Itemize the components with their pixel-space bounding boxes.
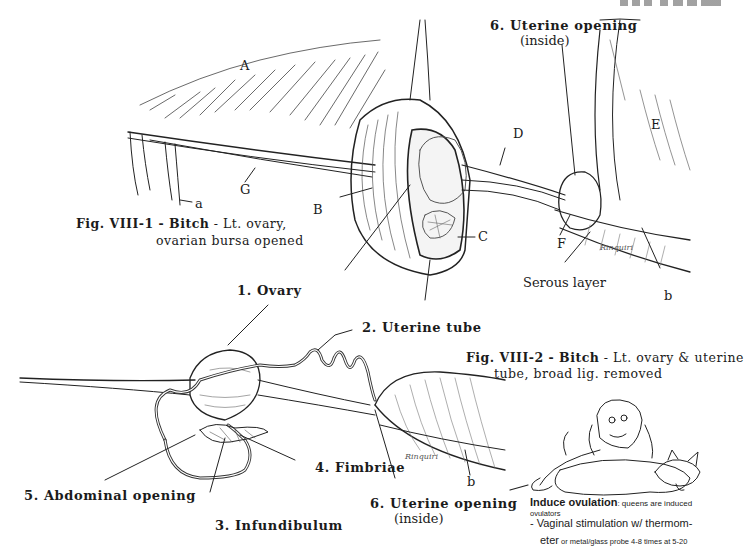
label-A: A xyxy=(240,58,249,73)
label-serous-layer: Serous layer xyxy=(523,275,606,290)
label-b-fig1: b xyxy=(664,288,672,303)
artist-signature-fig2: Rinquiri xyxy=(405,452,438,461)
note-bullet1-cont-big: eter xyxy=(540,534,559,546)
note-title: Induce ovulation xyxy=(530,496,617,508)
note-bullet1-cont: eter or metal/glass probe 4-8 times at 5… xyxy=(540,530,687,548)
note-bullet1-cont-small: or metal/glass probe 4-8 times at 5-20 xyxy=(559,537,687,546)
label-C: C xyxy=(478,229,488,244)
figure2-caption: Fig. VIII-2 - Bitch - Lt. ovary & uterin… xyxy=(466,350,744,365)
label-b-fig2: b xyxy=(467,474,475,489)
figure1-caption-bold: Fig. VIII-1 - Bitch xyxy=(76,216,209,231)
figure1-caption-line2: ovarian bursa opened xyxy=(156,233,304,248)
figure1-caption-rest: - Lt. ovary, xyxy=(209,216,286,231)
label-B: B xyxy=(313,202,323,217)
label-G: G xyxy=(240,182,250,197)
note-bullet1: - Vaginal stimulation w/ thermom- xyxy=(530,517,692,529)
label-uterine-opening-fig1: 6. Uterine opening xyxy=(490,18,638,33)
figure2-caption-bold: Fig. VIII-2 - Bitch xyxy=(466,350,599,365)
artist-signature-fig1: Rinquiri xyxy=(600,243,633,252)
label-ovary: 1. Ovary xyxy=(237,283,302,298)
label-uterine-opening-fig1-sub: (inside) xyxy=(520,33,570,48)
label-abdominal-opening: 5. Abdominal opening xyxy=(24,488,196,503)
figure2-caption-line2: tube, broad lig. removed xyxy=(494,366,663,381)
label-D: D xyxy=(513,126,523,141)
label-uterine-tube: 2. Uterine tube xyxy=(362,320,482,335)
label-uterine-opening-fig2-sub: (inside) xyxy=(394,511,444,526)
label-uterine-opening-fig2: 6. Uterine opening xyxy=(370,496,518,511)
label-a: a xyxy=(195,196,203,211)
note-title-line: Induce ovulation: queens are induced xyxy=(530,496,692,508)
figure2-caption-rest: - Lt. ovary & uterine xyxy=(599,350,743,365)
figure1-caption: Fig. VIII-1 - Bitch - Lt. ovary, xyxy=(76,216,287,231)
label-F: F xyxy=(557,236,566,251)
label-fimbriae: 4. Fimbriae xyxy=(315,460,405,475)
label-infundibulum: 3. Infundibulum xyxy=(215,518,343,533)
cartoon-drawing xyxy=(510,400,700,495)
figure1-drawing xyxy=(128,19,690,300)
note-title-rest: : queens are induced xyxy=(617,499,692,508)
label-E: E xyxy=(651,117,661,132)
